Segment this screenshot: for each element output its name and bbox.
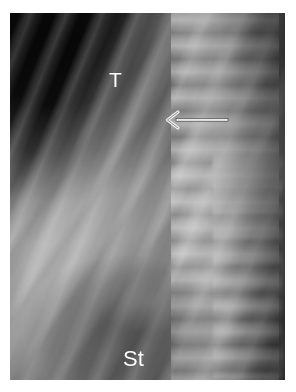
label-stomach: St xyxy=(123,348,144,370)
arrow-shaft-group xyxy=(176,119,228,122)
spinous-processes xyxy=(213,153,283,378)
arrow-shaft xyxy=(176,119,228,122)
radiograph-image: T St xyxy=(10,13,285,380)
finding-arrow-annotation xyxy=(164,109,230,131)
figure-root: T St xyxy=(0,0,296,392)
label-thymus: T xyxy=(109,69,122,90)
